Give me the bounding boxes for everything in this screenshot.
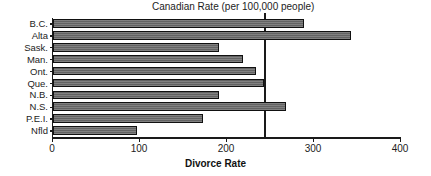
y-axis-labels: B.C.AltaSask.Man.Ont.Que.N.B.N.S.P.E.I.N… — [0, 18, 48, 137]
bar-row — [53, 18, 400, 30]
bars-layer — [53, 18, 400, 137]
y-axis-tick — [50, 130, 54, 131]
bar-que — [53, 79, 264, 88]
y-axis-tick — [50, 118, 54, 119]
bar-pei — [53, 114, 203, 123]
y-axis-tick — [50, 59, 54, 60]
x-axis-tick — [400, 137, 401, 142]
y-axis-tick — [50, 23, 54, 24]
x-axis-tick — [52, 137, 53, 142]
bar-nfld — [53, 126, 137, 135]
y-axis-label-que: Que. — [0, 78, 48, 90]
y-axis-tick — [50, 47, 54, 48]
y-axis-label-ns: N.S. — [0, 101, 48, 113]
y-axis-label-pei: P.E.I. — [0, 113, 48, 125]
x-axis-tick — [226, 137, 227, 142]
y-axis-tick — [50, 35, 54, 36]
y-axis-label-ont: Ont. — [0, 66, 48, 78]
y-axis-label-man: Man. — [0, 54, 48, 66]
bar-row — [53, 125, 400, 137]
x-axis-title: Divorce Rate — [0, 158, 431, 169]
y-axis-label-alta: Alta — [0, 30, 48, 42]
y-axis-label-nfld: Nfld — [0, 125, 48, 137]
x-axis-tick-label: 200 — [218, 143, 235, 154]
bar-sask — [53, 43, 219, 52]
x-axis-tick — [313, 137, 314, 142]
y-axis-label-nb: N.B. — [0, 89, 48, 101]
bar-nb — [53, 91, 219, 100]
y-axis-tick — [50, 95, 54, 96]
bar-row — [53, 113, 400, 125]
y-axis-label-bc: B.C. — [0, 18, 48, 30]
y-axis-label-sask: Sask. — [0, 42, 48, 54]
x-axis-tick — [139, 137, 140, 142]
bar-man — [53, 55, 243, 64]
bar-row — [53, 42, 400, 54]
y-axis-tick — [50, 107, 54, 108]
bar-row — [53, 30, 400, 42]
bar-row — [53, 89, 400, 101]
bar-row — [53, 77, 400, 89]
bar-bc — [53, 19, 304, 28]
plot-area — [52, 18, 400, 137]
chart-title: Canadian Rate (per 100,000 people) — [152, 1, 314, 12]
bar-row — [53, 101, 400, 113]
y-axis-tick — [50, 83, 54, 84]
divorce-rate-bar-chart: Canadian Rate (per 100,000 people) B.C.A… — [0, 0, 431, 176]
x-axis-tick-label: 300 — [305, 143, 322, 154]
x-axis-tick-label: 400 — [392, 143, 409, 154]
x-axis-tick-label: 0 — [49, 143, 55, 154]
bar-alta — [53, 31, 351, 40]
y-axis-tick — [50, 71, 54, 72]
bar-ont — [53, 67, 256, 76]
bar-ns — [53, 102, 286, 111]
x-axis-tick-label: 100 — [131, 143, 148, 154]
bar-row — [53, 54, 400, 66]
bar-row — [53, 66, 400, 78]
